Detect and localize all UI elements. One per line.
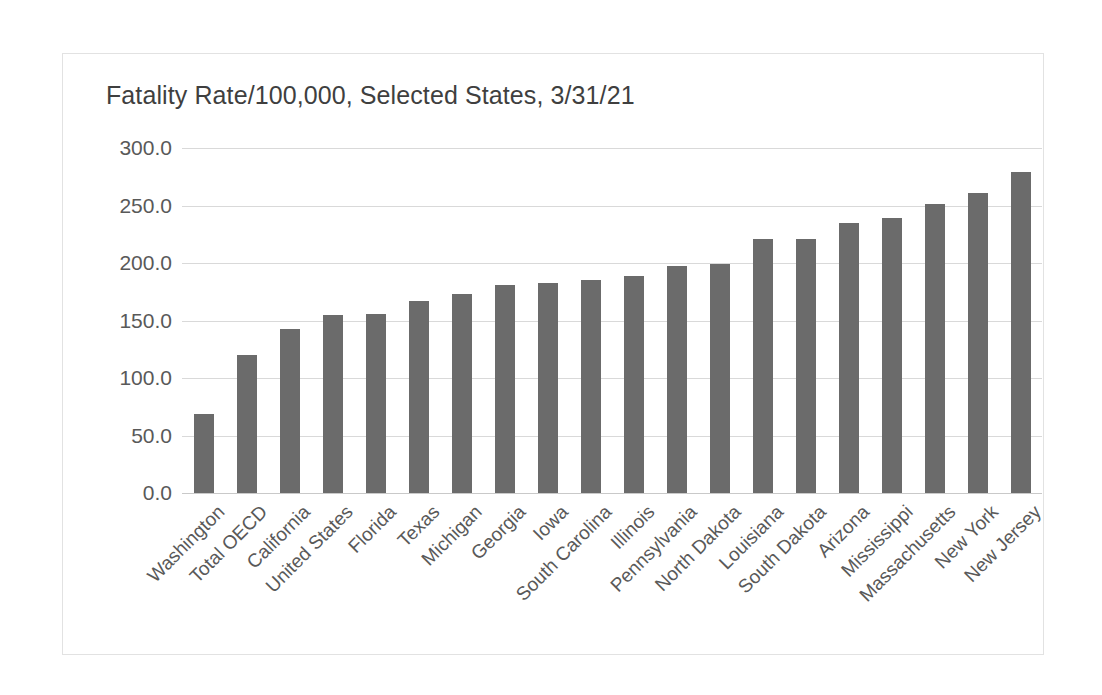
y-axis-tick-label: 0.0 — [82, 481, 172, 505]
bar[interactable] — [624, 276, 644, 493]
bar[interactable] — [280, 329, 300, 493]
bar[interactable] — [323, 315, 343, 493]
bar[interactable] — [409, 301, 429, 493]
bar[interactable] — [452, 294, 472, 493]
bar[interactable] — [753, 239, 773, 493]
y-axis-tick-label: 300.0 — [82, 136, 172, 160]
bar[interactable] — [366, 314, 386, 493]
bar[interactable] — [839, 223, 859, 493]
y-axis-tick-label: 150.0 — [82, 309, 172, 333]
bar-series — [182, 148, 1042, 493]
y-axis-tick-label: 250.0 — [82, 194, 172, 218]
chart-title: Fatality Rate/100,000, Selected States, … — [106, 81, 635, 110]
bar[interactable] — [925, 204, 945, 493]
bar[interactable] — [581, 280, 601, 493]
bar[interactable] — [237, 355, 257, 493]
x-axis-tick-label: Florida — [344, 501, 401, 558]
bar[interactable] — [194, 414, 214, 493]
plot-area — [182, 148, 1042, 493]
bar[interactable] — [882, 218, 902, 493]
bar[interactable] — [796, 239, 816, 493]
bar[interactable] — [968, 193, 988, 493]
y-axis-tick-label: 50.0 — [82, 424, 172, 448]
y-axis-tick-label: 100.0 — [82, 366, 172, 390]
bar[interactable] — [495, 285, 515, 493]
y-axis-tick-label: 200.0 — [82, 251, 172, 275]
bar[interactable] — [667, 266, 687, 493]
bar[interactable] — [710, 264, 730, 493]
gridline — [182, 493, 1042, 494]
x-axis: WashingtonTotal OECDCaliforniaUnited Sta… — [182, 495, 1042, 655]
bar[interactable] — [1011, 172, 1031, 493]
chart-container: Fatality Rate/100,000, Selected States, … — [62, 53, 1044, 655]
bar[interactable] — [538, 283, 558, 493]
y-axis: 300.0250.0200.0150.0100.050.00.0 — [77, 148, 172, 493]
